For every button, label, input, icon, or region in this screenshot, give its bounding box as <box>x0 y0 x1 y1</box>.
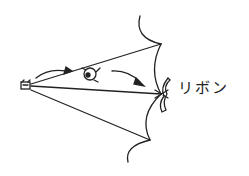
face-character-icon <box>82 68 100 82</box>
arrow-left-head <box>64 67 72 74</box>
scallop-top <box>139 16 161 44</box>
middle-line <box>31 86 161 94</box>
arrow-right-head <box>134 78 144 86</box>
ribbon-label: リボン <box>178 76 229 97</box>
upper-line <box>31 44 161 84</box>
small-figure-icon <box>21 80 30 89</box>
scallop-lower <box>146 94 161 140</box>
ribbon-icon <box>155 78 170 112</box>
lower-line <box>31 90 150 140</box>
scallop-bottom <box>127 140 150 162</box>
scallop-upper <box>155 44 162 94</box>
